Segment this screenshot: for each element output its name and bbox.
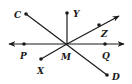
label-Q: Q: [102, 51, 110, 61]
point-P: [22, 42, 26, 46]
label-D: D: [111, 72, 120, 82]
label-Y: Y: [73, 9, 81, 19]
label-C: C: [14, 10, 22, 20]
point-Z: [97, 23, 101, 27]
label-X: X: [36, 66, 45, 76]
label-Z: Z: [100, 29, 108, 39]
label-M: M: [60, 52, 72, 62]
point-Y: [65, 11, 69, 15]
diagram-canvas: C Y Z P M Q X D: [0, 0, 132, 84]
point-X: [39, 57, 43, 61]
ray-MZ: [67, 16, 119, 44]
point-D: [105, 73, 109, 77]
geometry-figure: C Y Z P M Q X D: [0, 0, 132, 84]
label-P: P: [19, 51, 27, 61]
point-Q: [103, 42, 107, 46]
point-C: [24, 12, 28, 16]
